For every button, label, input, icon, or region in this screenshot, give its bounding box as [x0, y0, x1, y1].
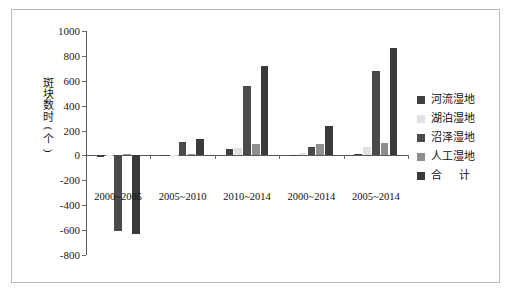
legend-swatch-river-icon	[417, 96, 425, 104]
x-axis-category-label: 2005~2014	[352, 191, 400, 202]
bar-1	[226, 149, 234, 156]
bar-3	[372, 71, 380, 155]
y-axis-tick-label: 600	[64, 75, 81, 86]
bar-group	[150, 31, 214, 255]
bar-1	[290, 155, 298, 156]
legend-item-label: 湖泊湿地	[431, 113, 475, 124]
y-axis-tick-label: 1000	[58, 26, 80, 37]
legend-item[interactable]: 湖泊湿地	[417, 109, 497, 128]
legend-item[interactable]: 河流湿地	[417, 90, 497, 109]
legend-item[interactable]: 沼泽湿地	[417, 128, 497, 147]
chart-legend: 河流湿地湖泊湿地沼泽湿地人工湿地合 计	[417, 90, 497, 185]
bar-2	[170, 155, 178, 156]
y-axis-tick-label: -600	[60, 225, 80, 236]
x-axis-category-label: 2005~2010	[159, 191, 207, 202]
y-axis-tick-label: -200	[60, 175, 80, 186]
legend-item[interactable]: 人工湿地	[417, 147, 497, 166]
bar-5	[325, 126, 333, 156]
bar-4	[381, 143, 389, 155]
bar-group	[86, 31, 150, 255]
y-axis-tick-label: 400	[64, 100, 81, 111]
x-axis-tick	[215, 155, 216, 159]
y-axis-tick-label: 800	[64, 50, 81, 61]
bar-3	[179, 142, 187, 155]
x-axis-category-label: 2000~2014	[288, 191, 336, 202]
y-axis-tick-label: -800	[60, 250, 80, 261]
x-axis-tick	[279, 155, 280, 159]
bar-4	[123, 154, 131, 155]
bar-3	[308, 147, 316, 156]
bar-group	[344, 31, 408, 255]
bar-2	[363, 147, 371, 155]
y-axis-tick-label: 200	[64, 125, 81, 136]
bar-5	[196, 139, 204, 156]
x-axis-category-label: 2000~2005	[94, 191, 142, 202]
legend-item[interactable]: 合 计	[417, 166, 497, 185]
x-axis-tick	[150, 155, 151, 159]
legend-item-label: 河流湿地	[431, 94, 475, 105]
y-axis-tick-label: 0	[75, 150, 81, 161]
bar-5	[261, 66, 269, 156]
legend-item-label: 合 计	[431, 170, 473, 181]
y-axis-title-char-6: )	[42, 134, 53, 168]
plot-area: 10008006004002000-200-400-600-8002000~20…	[86, 31, 408, 255]
y-axis-title-char-2: 数	[31, 100, 65, 111]
legend-swatch-artificial-icon	[417, 153, 425, 161]
bar-2	[299, 153, 307, 155]
legend-item-label: 人工湿地	[431, 151, 475, 162]
legend-swatch-marsh-icon	[417, 134, 425, 142]
chart-figure: 斑 块 数 时 ( 个 ) 10008006004002000-200-400-…	[0, 0, 511, 292]
x-axis-tick	[408, 155, 409, 159]
bar-1	[161, 155, 169, 156]
bar-2	[106, 155, 114, 156]
bar-4	[252, 144, 260, 155]
bar-3	[243, 86, 251, 156]
legend-item-label: 沼泽湿地	[431, 132, 475, 143]
y-axis-tick	[82, 255, 86, 256]
x-axis-tick	[344, 155, 345, 159]
y-axis-title: 斑 块 数 时 ( 个 )	[31, 78, 65, 157]
bar-2	[234, 148, 242, 155]
bar-group	[215, 31, 279, 255]
legend-swatch-lake-icon	[417, 115, 425, 123]
x-axis-category-label: 2010~2014	[223, 191, 271, 202]
legend-swatch-total-icon	[417, 172, 425, 180]
bar-4	[316, 144, 324, 155]
bar-1	[97, 155, 105, 156]
bar-4	[188, 154, 196, 155]
bar-group	[279, 31, 343, 255]
y-axis-tick-label: -400	[60, 200, 80, 211]
bar-1	[354, 154, 362, 155]
bar-5	[390, 48, 398, 156]
